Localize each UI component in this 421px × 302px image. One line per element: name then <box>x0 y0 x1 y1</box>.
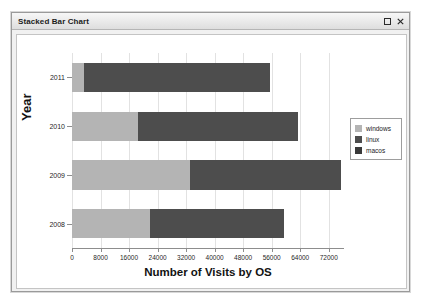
window-titlebar[interactable]: Stacked Bar Chart <box>12 13 409 30</box>
x-tick <box>329 248 330 252</box>
y-tick <box>67 126 72 127</box>
y-tick-label-2011: 2011 <box>50 74 65 81</box>
window-title: Stacked Bar Chart <box>18 17 89 26</box>
bar-segment-windows-2010[interactable] <box>72 112 138 141</box>
bar-segment-linux-2010[interactable] <box>138 112 298 141</box>
bar-segment-linux-2009[interactable] <box>190 160 342 189</box>
bar-group-2010[interactable] <box>72 112 343 141</box>
y-tick-label-2008: 2008 <box>49 220 65 227</box>
chart-legend: windowslinuxmacos <box>350 118 402 160</box>
bar-group-2009[interactable] <box>72 160 343 189</box>
desktop-background: Stacked Bar Chart 2011201020092008 Year <box>0 0 421 302</box>
x-tick-label: 48000 <box>234 254 252 261</box>
x-tick <box>186 248 187 252</box>
x-tick-label: 56000 <box>263 254 281 261</box>
legend-swatch-macos <box>355 147 362 154</box>
bar-segment-windows-2011[interactable] <box>72 63 84 92</box>
x-tick-label: 0 <box>70 254 74 261</box>
x-axis-line <box>72 248 344 249</box>
y-tick <box>67 224 72 225</box>
bar-segment-linux-2011[interactable] <box>84 63 269 92</box>
plot-area <box>72 53 343 248</box>
bar-segment-windows-2008[interactable] <box>72 209 150 238</box>
legend-item-macos[interactable]: macos <box>355 147 397 154</box>
bar-group-2008[interactable] <box>72 209 343 238</box>
x-tick <box>300 248 301 252</box>
bar-segment-windows-2009[interactable] <box>72 160 190 189</box>
y-axis-title: Year <box>19 94 34 121</box>
x-tick-label: 32000 <box>177 254 195 261</box>
bar-group-2011[interactable] <box>72 63 343 92</box>
legend-label-windows: windows <box>366 125 391 132</box>
x-tick <box>272 248 273 252</box>
x-tick-label: 40000 <box>206 254 224 261</box>
y-tick-label-2010: 2010 <box>49 123 65 130</box>
x-tick <box>101 248 102 252</box>
x-tick-label: 16000 <box>120 254 138 261</box>
x-tick <box>158 248 159 252</box>
window-client-area: 2011201020092008 Year Number of Visits b… <box>16 34 407 289</box>
y-tick <box>67 77 72 78</box>
legend-item-windows[interactable]: windows <box>355 125 397 132</box>
x-tick-label: 64000 <box>291 254 309 261</box>
chart-window: Stacked Bar Chart 2011201020092008 Year <box>11 12 410 292</box>
x-tick <box>129 248 130 252</box>
maximize-icon[interactable] <box>382 16 393 27</box>
y-tick <box>67 175 72 176</box>
legend-label-linux: linux <box>366 136 379 143</box>
x-tick <box>243 248 244 252</box>
legend-swatch-windows <box>355 125 362 132</box>
x-axis-title: Number of Visits by OS <box>72 266 344 278</box>
bar-segment-linux-2008[interactable] <box>150 209 284 238</box>
x-tick <box>72 248 73 252</box>
legend-swatch-linux <box>355 136 362 143</box>
legend-item-linux[interactable]: linux <box>355 136 397 143</box>
x-tick-label: 8000 <box>93 254 107 261</box>
x-tick-label: 24000 <box>149 254 167 261</box>
y-axis-labels: 2011201020092008 <box>17 35 65 288</box>
close-icon[interactable] <box>395 16 406 27</box>
y-tick-label-2009: 2009 <box>49 171 65 178</box>
x-tick <box>215 248 216 252</box>
stacked-bar-chart: 2011201020092008 Year Number of Visits b… <box>17 35 406 288</box>
x-tick-label: 72000 <box>320 254 338 261</box>
legend-label-macos: macos <box>366 147 385 154</box>
